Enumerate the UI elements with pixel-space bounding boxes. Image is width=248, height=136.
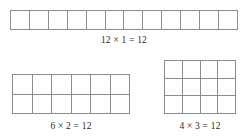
- array-cell: [165, 61, 183, 79]
- array-caption-12x1: 12 × 1 = 12: [0, 35, 248, 46]
- array-cell: [111, 95, 131, 115]
- array-cell: [201, 96, 219, 114]
- array-cell: [87, 11, 106, 30]
- array-cell: [218, 79, 236, 97]
- array-cell: [124, 11, 143, 30]
- array-cell: [111, 75, 131, 95]
- array-cell: [201, 61, 219, 79]
- array-cell: [33, 95, 53, 115]
- array-cell: [165, 79, 183, 97]
- array-cell: [218, 96, 236, 114]
- array-cell: [72, 95, 92, 115]
- array-cell: [49, 11, 68, 30]
- array-cell: [181, 11, 200, 30]
- array-cell: [219, 11, 238, 30]
- array-cell: [165, 96, 183, 114]
- array-cell: [106, 11, 125, 30]
- array-cell: [183, 79, 201, 97]
- array-caption-6x2: 6 × 2 = 12: [12, 121, 130, 132]
- array-cell: [33, 75, 53, 95]
- array-cell: [72, 75, 92, 95]
- array-cell: [218, 61, 236, 79]
- array-cell: [183, 96, 201, 114]
- array-cell: [11, 11, 30, 30]
- array-cell: [30, 11, 49, 30]
- array-grid-4x3: [164, 60, 236, 114]
- array-cell: [68, 11, 87, 30]
- array-cell: [200, 11, 219, 30]
- array-grid-12x1: [10, 10, 238, 30]
- array-cell: [91, 95, 111, 115]
- array-grid-6x2: [12, 74, 130, 114]
- array-cell: [143, 11, 162, 30]
- array-cell: [13, 95, 33, 115]
- array-cell: [162, 11, 181, 30]
- array-cell: [201, 79, 219, 97]
- array-cell: [52, 95, 72, 115]
- array-cell: [91, 75, 111, 95]
- array-caption-4x3: 4 × 3 = 12: [164, 121, 236, 132]
- array-cell: [52, 75, 72, 95]
- array-cell: [183, 61, 201, 79]
- array-cell: [13, 75, 33, 95]
